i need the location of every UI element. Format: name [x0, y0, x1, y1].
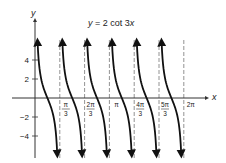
chart-title: y = 2 cot 3x — [87, 18, 135, 28]
cotangent-chart: 42−2−4π32π3π4π35π32π y x y = 2 cot 3x — [0, 0, 226, 163]
x-tick-label-num: 4π — [136, 101, 145, 108]
x-tick-label: π — [114, 101, 119, 108]
x-tick-label-den: 3 — [163, 110, 167, 117]
x-tick-label-num: 2π — [87, 101, 96, 108]
x-axis-label: x — [211, 92, 217, 102]
y-tick-label: 4 — [25, 56, 30, 65]
x-tick-label: 2π — [187, 101, 196, 108]
y-tick-label: 2 — [25, 75, 30, 84]
x-tick-label-den: 3 — [64, 110, 68, 117]
title-eq: = 2 cot 3 — [93, 18, 130, 28]
title-var: x — [129, 18, 135, 28]
y-tick-label: −4 — [20, 132, 30, 141]
y-axis-label: y — [30, 8, 36, 18]
x-tick-label-den: 3 — [89, 110, 93, 117]
x-tick-label-num: 5π — [161, 101, 170, 108]
x-tick-label-num: π — [64, 101, 69, 108]
y-tick-label: −2 — [20, 113, 30, 122]
x-tick-label-den: 3 — [138, 110, 142, 117]
